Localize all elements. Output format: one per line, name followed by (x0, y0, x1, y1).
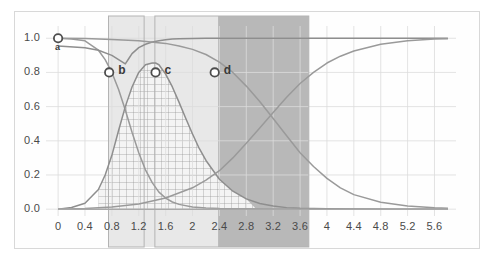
shaded-band-dark (218, 16, 309, 247)
x-tick-label: 0 (44, 220, 72, 232)
marker-label-d: d (224, 63, 231, 77)
marker-label-a: a (55, 42, 60, 52)
x-tick-label: 1.2 (125, 220, 153, 232)
x-tick-label: 5.6 (420, 220, 448, 232)
y-tick-label: 0.4 (14, 134, 40, 146)
x-tick-label: 2.4 (205, 220, 233, 232)
x-tick-label: 1.6 (152, 220, 180, 232)
x-tick-label: 3.2 (259, 220, 287, 232)
y-tick-label: 1.0 (14, 31, 40, 43)
marker-point-d (211, 68, 219, 76)
x-tick-label: 0.4 (71, 220, 99, 232)
x-tick-label: 4.4 (340, 220, 368, 232)
x-tick-label: 5.2 (394, 220, 422, 232)
x-tick-label: 3.6 (286, 220, 314, 232)
marker-label-c: c (165, 63, 172, 77)
y-tick-label: 0.0 (14, 202, 40, 214)
x-tick-label: 4.8 (367, 220, 395, 232)
x-tick-label: 2.8 (232, 220, 260, 232)
y-tick-label: 0.2 (14, 168, 40, 180)
marker-point-b (105, 68, 113, 76)
y-tick-label: 0.8 (14, 65, 40, 77)
marker-point-a (54, 34, 62, 42)
x-tick-label: 0.8 (98, 220, 126, 232)
marker-label-b: b (118, 63, 125, 77)
x-tick-label: 4 (313, 220, 341, 232)
y-tick-label: 0.6 (14, 100, 40, 112)
chart-figure: 00.40.81.21.622.42.83.23.644.44.85.25.6 … (0, 0, 496, 261)
x-tick-label: 2 (179, 220, 207, 232)
marker-point-c (151, 68, 159, 76)
